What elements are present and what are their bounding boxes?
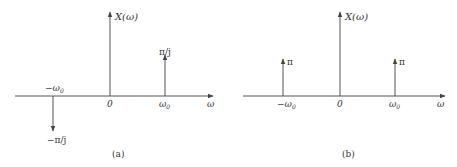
- tick-pos-w0-a: ω0: [159, 99, 170, 110]
- impulse-label-pos-b: π: [399, 57, 405, 67]
- tick-pos-w0-b: ω0: [389, 99, 400, 110]
- impulse-label-neg-a: −π/j: [47, 135, 66, 145]
- fourier-transform-diagram: X(ω) π/j −π/j −ω0 0 ω0 ω (a) X(ω) π π −ω…: [0, 0, 457, 167]
- origin-label-a: 0: [107, 99, 113, 109]
- tick-neg-w0-b: −ω0: [277, 99, 296, 110]
- x-axis-label-b: ω: [437, 99, 445, 109]
- caption-a: (a): [112, 149, 124, 159]
- y-axis-label-b: X(ω): [344, 11, 368, 22]
- origin-label-b: 0: [337, 99, 343, 109]
- x-axis-label-a: ω: [207, 99, 215, 109]
- impulse-label-neg-b: π: [287, 57, 293, 67]
- caption-b: (b): [342, 149, 355, 159]
- impulse-label-pos-a: π/j: [159, 47, 171, 57]
- panel-b: X(ω) π π −ω0 0 ω0 ω (b): [243, 11, 445, 159]
- tick-neg-w0-a: −ω0: [45, 83, 64, 94]
- panel-a: X(ω) π/j −π/j −ω0 0 ω0 ω (a): [15, 11, 215, 159]
- y-axis-label-a: X(ω): [114, 11, 138, 22]
